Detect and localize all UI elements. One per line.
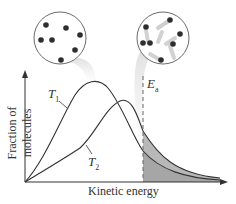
y-axis-arrow [22, 70, 28, 78]
fast-molecules-inset [137, 12, 189, 64]
activation-energy-label: Ea [147, 76, 159, 94]
left-magnifier-beam [70, 58, 96, 82]
x-axis-arrow [220, 179, 228, 185]
x-axis-label: Kinetic energy [88, 184, 159, 199]
t1-leader [59, 101, 67, 108]
y-axis-label: Fraction of molecules [5, 83, 35, 183]
slow-molecules-inset [34, 12, 86, 64]
t1-label: T1 [48, 86, 59, 104]
t2-leader [86, 145, 92, 154]
right-magnifier-beam [134, 50, 150, 150]
diagram-canvas [0, 0, 236, 204]
t2-label: T2 [88, 154, 99, 172]
